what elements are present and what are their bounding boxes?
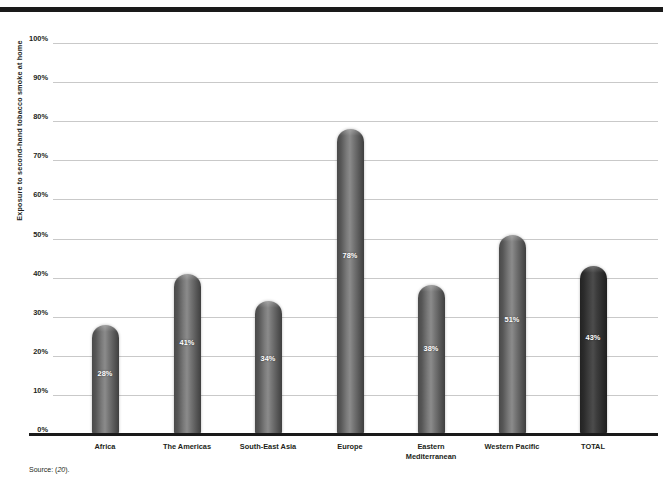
bar-cap <box>499 235 526 243</box>
bar: 51% <box>499 235 526 434</box>
bar-cap <box>418 285 445 293</box>
bar-value-label: 78% <box>337 251 364 260</box>
y-axis-tick-label: 30% <box>8 308 48 317</box>
top-rule <box>0 7 663 12</box>
gridline <box>53 121 658 122</box>
bar: 43% <box>580 266 607 434</box>
gridline <box>53 43 658 44</box>
source-suffix: ). <box>65 466 69 473</box>
bar-value-label: 51% <box>499 315 526 324</box>
y-axis-tick-label: 20% <box>8 347 48 356</box>
plot-area: 28%41%34%78%38%51%43% <box>53 43 658 434</box>
category-label: TOTAL <box>538 442 648 452</box>
bar-value-label: 43% <box>580 333 607 342</box>
y-axis-tick-label: 60% <box>8 190 48 199</box>
y-axis-tick-label: 40% <box>8 269 48 278</box>
bar-cap <box>337 129 364 137</box>
bar: 78% <box>337 129 364 434</box>
y-axis-tick-label: 50% <box>8 230 48 239</box>
bar-value-label: 34% <box>255 354 282 363</box>
y-axis-tick-label: 80% <box>8 112 48 121</box>
y-axis-tick-label: 70% <box>8 151 48 160</box>
bar-value-label: 38% <box>418 344 445 353</box>
bar-cap <box>174 274 201 282</box>
x-axis-line <box>29 433 658 436</box>
y-axis-tick-labels: 100%90%80%70%60%50%40%30%20%10%0% <box>6 43 48 434</box>
bar: 41% <box>174 274 201 434</box>
y-axis-tick-label: 100% <box>8 34 48 43</box>
bar-cap <box>92 325 119 333</box>
bar-cap <box>580 266 607 274</box>
source-prefix: Source: ( <box>29 466 57 473</box>
bar: 38% <box>418 285 445 434</box>
bar: 34% <box>255 301 282 434</box>
gridline <box>53 82 658 83</box>
bar-value-label: 41% <box>174 338 201 347</box>
bar: 28% <box>92 325 119 434</box>
bar-value-label: 28% <box>92 369 119 378</box>
y-axis-tick-label: 90% <box>8 73 48 82</box>
source-note: Source: (20). <box>29 466 69 473</box>
y-axis-tick-label: 10% <box>8 386 48 395</box>
bar-cap <box>255 301 282 309</box>
